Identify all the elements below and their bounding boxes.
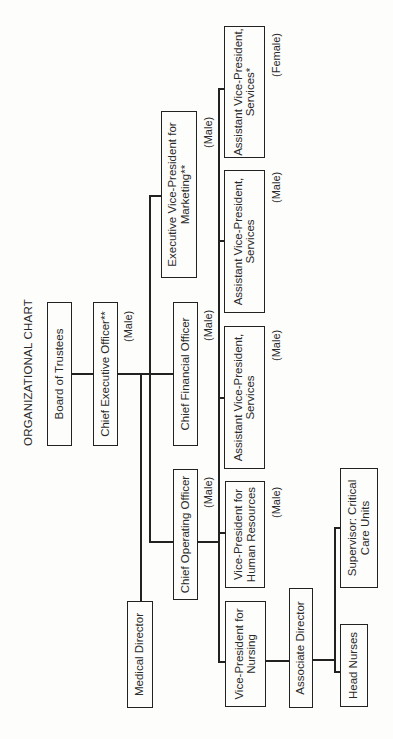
node-associate-director: Associate Director <box>289 588 313 708</box>
node-label-line2: Services* <box>244 68 257 117</box>
node-supervisor-critical-care: Supervisor: Critical Care Units <box>340 468 378 588</box>
connector-evp-coo-trunk <box>149 195 151 542</box>
connector-to-vp-hr <box>218 532 225 534</box>
gender-label-evp: (Male) <box>202 117 214 148</box>
node-avp-services-female: Assistant Vice-President, Services* <box>224 26 265 158</box>
node-label-line2: Marketing** <box>179 165 192 224</box>
node-head-nurses: Head Nurses <box>340 624 368 707</box>
node-label-line1: Assistant Vice-President, <box>232 334 245 462</box>
gender-label-avp-female: (Female) <box>270 33 282 77</box>
org-chart: ORGANIZATIONAL CHART Board of Trustees C <box>0 0 393 739</box>
gender-label-avp-male-1: (Male) <box>270 172 282 203</box>
gender-label-avp-male-2: (Male) <box>270 330 282 361</box>
node-label-line1: Vice-President for <box>233 608 246 699</box>
node-label-line2: Human Resources <box>245 487 258 582</box>
connector-to-evp <box>149 195 161 197</box>
node-avp-services-male-2: Assistant Vice-President, Services <box>224 326 265 469</box>
node-chief-executive-officer: Chief Executive Officer** <box>93 302 118 446</box>
node-label-line1: Supervisor: Critical <box>346 480 359 577</box>
gender-label-vp-hr: (Male) <box>270 487 282 518</box>
node-label: Medical Director <box>133 613 146 696</box>
node-chief-operating-officer: Chief Operating Officer <box>173 469 198 600</box>
node-label: Head Nurses <box>347 632 360 699</box>
connector-avp-bus <box>218 88 220 662</box>
connector-nursing-bus <box>334 527 336 672</box>
node-medical-director: Medical Director <box>127 601 153 708</box>
connector-coo-bus <box>198 541 219 543</box>
node-label: Associate Director <box>294 601 307 694</box>
node-label: Chief Executive Officer** <box>99 311 112 437</box>
connector-ceo-cfo <box>118 373 173 375</box>
connector-assoc-bus <box>313 659 335 661</box>
node-label-line1: Executive Vice-President for <box>166 122 179 266</box>
connector-ceo-medical-director <box>140 373 142 602</box>
node-board-of-trustees: Board of Trustees <box>47 302 72 446</box>
connector-nursing-assoc <box>266 660 289 662</box>
node-vp-human-resources: Vice-President for Human Resources <box>225 481 265 588</box>
connector-to-coo <box>149 541 173 543</box>
node-label-line2: Nursing <box>245 634 258 674</box>
gender-label-ceo: (Male) <box>122 311 134 342</box>
node-label-line2: Services <box>244 375 257 419</box>
connector-board-ceo <box>72 373 93 375</box>
node-label: Chief Operating Officer <box>179 476 192 593</box>
gender-label-cfo: (Male) <box>202 310 214 341</box>
node-label-line2: Care Units <box>359 501 372 555</box>
node-avp-services-male-1: Assistant Vice-President, Services <box>224 170 265 313</box>
chart-title: ORGANIZATIONAL CHART <box>22 300 34 446</box>
node-label-line1: Vice-President for <box>232 489 245 580</box>
node-label-line1: Assistant Vice-President, <box>232 178 245 306</box>
connector-to-vp-nursing <box>218 661 225 663</box>
node-label: Chief Financial Officer <box>179 318 192 431</box>
node-label-line1: Assistant Vice-President, <box>232 28 245 156</box>
gender-label-coo: (Male) <box>202 477 214 508</box>
node-chief-financial-officer: Chief Financial Officer <box>173 302 198 446</box>
node-label-line2: Services <box>244 219 257 263</box>
node-label: Board of Trustees <box>53 329 66 420</box>
node-evp-marketing: Executive Vice-President for Marketing** <box>161 111 197 278</box>
node-vp-nursing: Vice-President for Nursing <box>225 601 266 707</box>
